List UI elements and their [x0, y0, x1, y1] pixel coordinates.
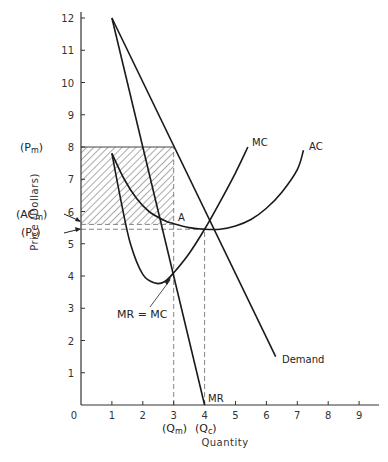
x-tick-label: 3 [171, 410, 177, 421]
y-tick-label: 11 [61, 45, 74, 56]
x-tick-label: 0 [71, 410, 77, 421]
point-a-label: A [178, 212, 185, 223]
y-tick-label: 9 [68, 110, 74, 121]
y-tick-label: 8 [68, 142, 74, 153]
demand-curve-label: Demand [282, 354, 324, 365]
x-tick-label: 8 [325, 410, 331, 421]
mc-curve-label: MC [252, 137, 268, 148]
y-tick-label: 10 [61, 78, 74, 89]
mr-curve-label: MR [208, 393, 224, 404]
x-tick-label: 1 [109, 410, 115, 421]
x-tick-label: 7 [294, 410, 300, 421]
acm-arrowhead [75, 217, 81, 222]
x-tick-label: 4 [201, 410, 207, 421]
acm-label: (ACm) [16, 208, 47, 222]
x-tick-label: 6 [263, 410, 269, 421]
ac-curve-label: AC [309, 141, 323, 152]
y-tick-label: 3 [68, 303, 74, 314]
mr-eq-mc-label: MR = MC [117, 308, 168, 321]
monopoly-cost-chart: 0123456789123456789101112 Price (Dollars… [0, 0, 388, 462]
qm-label: (Qm) [162, 422, 187, 436]
y-tick-label: 2 [68, 336, 74, 347]
x-tick-label: 9 [356, 410, 362, 421]
y-tick-label: 7 [68, 174, 74, 185]
x-axis-title: Quantity [201, 437, 248, 448]
pm-label: (Pm) [20, 141, 43, 155]
y-tick-label: 4 [68, 271, 74, 282]
y-tick-label: 5 [68, 239, 74, 250]
qc-label: (Qc) [195, 422, 217, 436]
pc-arrowhead [75, 227, 81, 232]
x-tick-label: 5 [232, 410, 238, 421]
y-tick-label: 12 [61, 13, 74, 24]
x-tick-label: 2 [140, 410, 146, 421]
pc-label: (Pc) [21, 226, 41, 240]
y-tick-label: 1 [68, 368, 74, 379]
